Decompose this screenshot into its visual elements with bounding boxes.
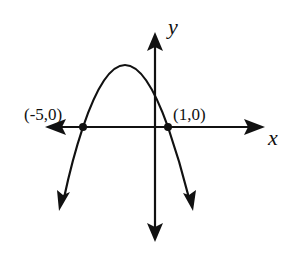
root-point-right [164,123,172,131]
graph-canvas: (-5,0) (1,0) x y [0,0,298,254]
right-root-label: (1,0) [173,105,206,124]
curve-right-arrow-icon [183,190,196,211]
parabola-curve [64,65,189,198]
left-root-label: (-5,0) [24,105,62,124]
x-axis-label: x [267,125,278,150]
y-axis-label: y [166,14,178,39]
curve-left-arrow-icon [57,190,70,211]
root-point-left [79,123,87,131]
